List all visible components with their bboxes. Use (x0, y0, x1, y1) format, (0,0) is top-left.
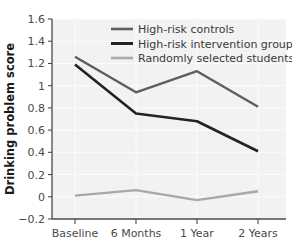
y-axis-ticks: 1.61.41.210.80.60.40.20−0.2 (18, 13, 52, 226)
x-tick-label: Baseline (52, 227, 99, 240)
y-tick-label: 1 (38, 80, 45, 93)
x-tick-label: 2 Years (238, 227, 278, 240)
legend-label-1: High-risk intervention group (138, 38, 292, 51)
y-tick-label: 0.6 (28, 124, 46, 137)
y-tick-label: 1.2 (28, 57, 46, 70)
legend-label-2: Randomly selected students (138, 52, 292, 65)
y-tick-label: 1.6 (28, 13, 46, 26)
y-tick-label: 1.4 (28, 35, 46, 48)
line-chart: 1.61.41.210.80.60.40.20−0.2 Baseline6 Mo… (0, 0, 292, 241)
y-tick-label: −0.2 (18, 213, 45, 226)
x-tick-label: 1 Year (180, 227, 214, 240)
y-axis-title: Drinking problem score (3, 43, 17, 195)
y-tick-label: 0.8 (28, 102, 46, 115)
chart-container: 1.61.41.210.80.60.40.20−0.2 Baseline6 Mo… (0, 0, 292, 241)
y-tick-label: 0 (38, 191, 45, 204)
legend-label-0: High-risk controls (138, 23, 235, 36)
x-tick-label: 6 Months (111, 227, 162, 240)
y-tick-label: 0.2 (28, 169, 46, 182)
y-tick-label: 0.4 (28, 146, 46, 159)
x-axis-ticks: Baseline6 Months1 Year2 Years (52, 219, 278, 240)
